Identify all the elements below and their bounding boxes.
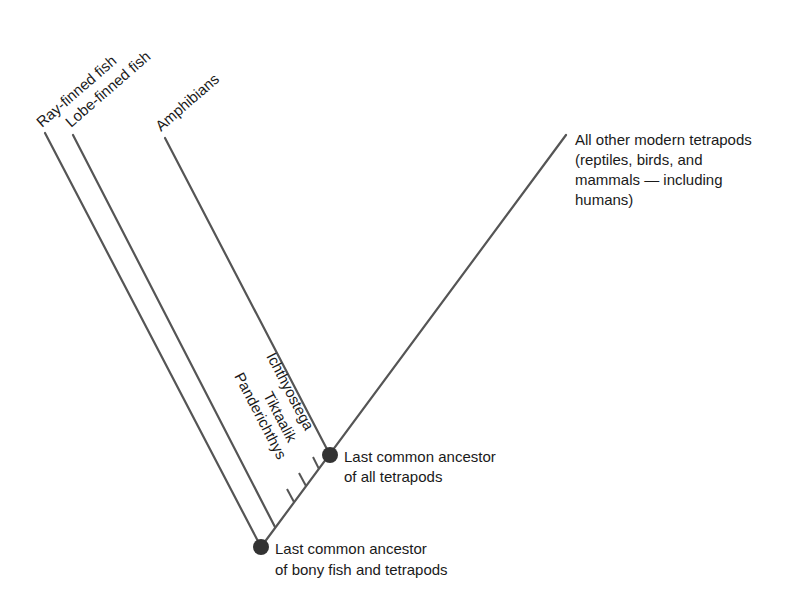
tetrapods-ancestor-line-1: Last common ancestor bbox=[344, 448, 496, 465]
cladogram: Ray-finned fish Lobe-finned fish Amphibi… bbox=[0, 0, 805, 608]
lobe-finned-fish-branch bbox=[73, 135, 275, 527]
bony-fish-ancestor-line-2: of bony fish and tetrapods bbox=[275, 561, 448, 578]
ray-finned-fish-branch bbox=[45, 133, 261, 547]
other-tetrapods-line-2: (reptiles, birds, and bbox=[575, 151, 703, 168]
other-tetrapods-line-1: All other modern tetrapods bbox=[575, 131, 752, 148]
main-trunk-branch bbox=[261, 135, 566, 547]
ichthyostega-tick bbox=[313, 457, 319, 469]
bony-fish-ancestor-label: Last common ancestor of bony fish and te… bbox=[275, 540, 448, 578]
panderichthys-tick bbox=[287, 489, 294, 502]
bony-fish-ancestor-node bbox=[253, 539, 269, 555]
tetrapods-ancestor-line-2: of all tetrapods bbox=[344, 468, 442, 485]
amphibians-label: Amphibians bbox=[152, 70, 222, 134]
other-tetrapods-line-3: mammals — including bbox=[575, 171, 723, 188]
other-tetrapods-line-4: humans) bbox=[575, 191, 633, 208]
tetrapods-ancestor-label: Last common ancestor of all tetrapods bbox=[344, 448, 496, 485]
tetrapods-ancestor-node bbox=[322, 447, 338, 463]
other-tetrapods-label: All other modern tetrapods (reptiles, bi… bbox=[575, 131, 752, 208]
bony-fish-ancestor-line-1: Last common ancestor bbox=[275, 540, 427, 557]
tiktaalik-tick bbox=[299, 473, 306, 486]
